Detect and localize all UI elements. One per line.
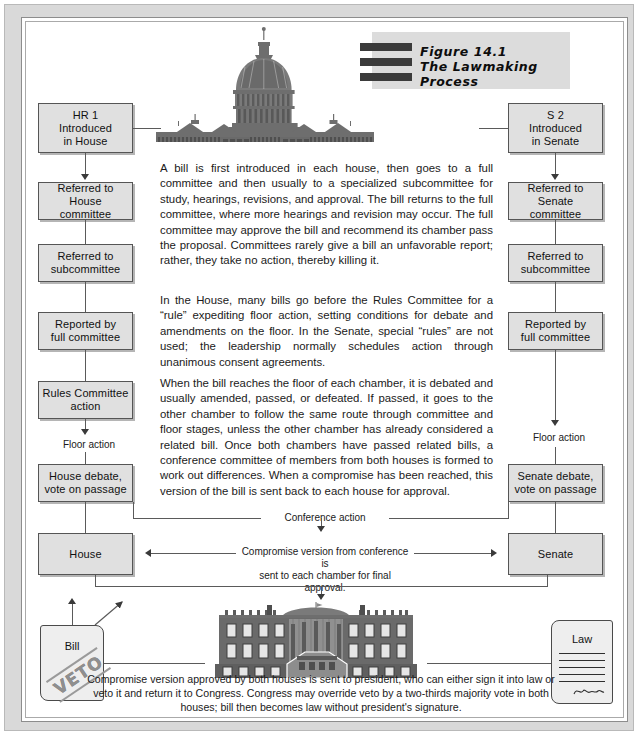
president-to-law-line xyxy=(427,663,551,664)
paragraph-text: When the bill reaches the floor of each … xyxy=(160,376,493,499)
house-debate-vote-on-passage[interactable]: House debate, vote on passage xyxy=(38,464,133,502)
house-arrow-floor xyxy=(81,429,89,435)
box-label: Reported by full committee xyxy=(48,318,123,344)
figure-title-text: The Lawmaking Process xyxy=(420,59,570,89)
senate-final-down-stub xyxy=(547,575,548,587)
senate-arrow-1 xyxy=(551,174,559,180)
president-to-bill-line xyxy=(104,663,205,664)
figure-number: Figure 14.1 xyxy=(420,44,570,59)
conference-arrow-down xyxy=(317,526,325,532)
senate-to-conference-stub xyxy=(508,502,509,519)
senate-connector-4 xyxy=(555,350,556,422)
senate-arrow-floor xyxy=(551,420,559,426)
house-final[interactable]: House xyxy=(38,533,133,575)
bill-to-house-line xyxy=(72,604,73,625)
conference-action-label: Conference action xyxy=(261,512,389,524)
house-to-capitol-line xyxy=(133,128,161,129)
senate-final[interactable]: Senate xyxy=(508,533,603,575)
senate-connector-2 xyxy=(555,220,556,244)
figure-page: Figure 14.1 The Lawmaking Process HR 1 I… xyxy=(0,0,642,743)
title-decor-bars xyxy=(360,43,412,81)
house-to-conference-stub xyxy=(133,502,134,519)
box-label: Referred to subcommittee xyxy=(48,250,124,276)
senate-connector-3 xyxy=(555,282,556,312)
senate-final-to-center xyxy=(321,586,547,587)
conference-line-right xyxy=(381,518,508,519)
house-connector-7 xyxy=(85,502,86,533)
senate-debate-vote-on-passage[interactable]: Senate debate, vote on passage xyxy=(508,464,603,502)
compromise-arrow-left xyxy=(145,549,151,557)
paragraph-text: A bill is first introduced in each house… xyxy=(160,161,493,269)
body-paragraph-3: When the bill reaches the floor of each … xyxy=(160,376,493,499)
box-label: House debate, vote on passage xyxy=(41,470,129,496)
box-label: Senate debate, vote on passage xyxy=(511,470,599,496)
law-rule-5 xyxy=(559,681,605,682)
bill-diagonal-arrow xyxy=(92,598,128,628)
bottom-caption: Compromise version approved by both hous… xyxy=(80,672,562,714)
box-label: HR 1 Introduced in House xyxy=(56,109,115,148)
rules-committee-action[interactable]: Rules Committee action xyxy=(38,381,133,419)
law-title: Law xyxy=(551,633,613,645)
white-house-icon xyxy=(205,602,427,680)
house-connector-1 xyxy=(85,153,86,175)
house-connector-3 xyxy=(85,282,86,312)
conference-line-left xyxy=(133,518,261,519)
paragraph-text: In the House, many bills go before the R… xyxy=(160,293,493,370)
bill-arrow-up xyxy=(68,598,76,604)
box-label: Senate xyxy=(535,548,576,561)
box-label: Reported by full committee xyxy=(518,318,593,344)
compromise-line-right xyxy=(406,553,491,554)
box-label: Referred to subcommittee xyxy=(518,250,594,276)
capitol-building-icon xyxy=(150,22,380,142)
senate-floor-action-label: Floor action xyxy=(517,432,601,444)
senate-reported-by-full-committee[interactable]: Reported by full committee xyxy=(508,312,603,350)
law-rule-4 xyxy=(559,674,605,675)
law-rule-2 xyxy=(559,660,605,661)
house-connector-6 xyxy=(85,452,86,464)
box-label: S 2 Introduced in Senate xyxy=(526,109,585,148)
body-paragraph-1: A bill is first introduced in each house… xyxy=(160,161,493,269)
law-rule-1 xyxy=(559,653,605,654)
house-final-to-center xyxy=(95,586,321,587)
compromise-line-left xyxy=(151,553,236,554)
house-reported-by-full-committee[interactable]: Reported by full committee xyxy=(38,312,133,350)
senate-referred-to-subcommittee[interactable]: Referred to subcommittee xyxy=(508,244,603,282)
senate-to-capitol-line xyxy=(479,128,508,129)
house-connector-2 xyxy=(85,220,86,244)
box-label: Referred to House committee xyxy=(39,182,132,221)
compromise-arrow-right xyxy=(491,549,497,557)
house-referred-to-subcommittee[interactable]: Referred to subcommittee xyxy=(38,244,133,282)
body-paragraph-2: In the House, many bills go before the R… xyxy=(160,293,493,370)
house-connector-4 xyxy=(85,350,86,381)
s2-introduced-in-senate[interactable]: S 2 Introduced in Senate xyxy=(508,103,603,153)
president-arrow-down xyxy=(317,594,325,600)
box-label: House xyxy=(66,548,104,561)
senate-connector-1 xyxy=(555,153,556,175)
box-label: Rules Committee action xyxy=(40,387,132,413)
presidential-signature-icon xyxy=(572,684,606,698)
senate-connector-6 xyxy=(555,502,556,533)
box-label: Referred to Senate committee xyxy=(509,182,602,221)
referred-to-house-committee[interactable]: Referred to House committee xyxy=(38,182,133,220)
house-arrow-1 xyxy=(81,174,89,180)
senate-connector-5 xyxy=(555,447,556,464)
house-floor-action-label: Floor action xyxy=(47,439,131,451)
law-rule-3 xyxy=(559,667,605,668)
referred-to-senate-committee[interactable]: Referred to Senate committee xyxy=(508,182,603,220)
hr1-introduced-in-house[interactable]: HR 1 Introduced in House xyxy=(38,103,133,153)
figure-title: Figure 14.1 The Lawmaking Process xyxy=(420,44,570,89)
